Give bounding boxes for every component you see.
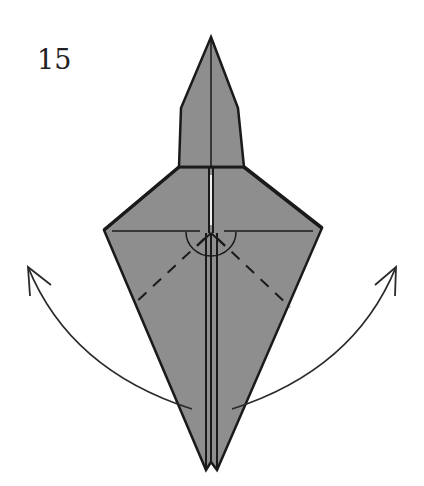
right-arrowhead-icon [375, 267, 396, 296]
origami-diagram [0, 0, 424, 486]
